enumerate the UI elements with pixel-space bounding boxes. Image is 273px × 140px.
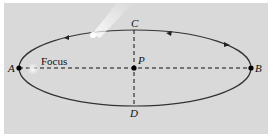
label-C: C: [131, 17, 139, 29]
point-B: [248, 65, 253, 70]
comet-icon: [90, 32, 96, 38]
orbit-diagram: A B C D P Focus: [0, 0, 273, 140]
focus-sun-icon: [27, 63, 39, 75]
comet-tail: [92, 2, 132, 38]
point-A: [16, 65, 21, 70]
point-P: [131, 65, 136, 70]
label-D: D: [129, 107, 138, 119]
label-A: A: [7, 62, 15, 74]
label-P: P: [137, 54, 145, 66]
label-focus: Focus: [41, 55, 67, 67]
label-B: B: [255, 62, 262, 74]
